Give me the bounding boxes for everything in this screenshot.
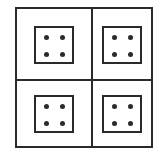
- grid-cell-top-right: [93, 9, 151, 75]
- dot-icon: [112, 35, 117, 40]
- dice-square: [102, 26, 142, 64]
- dot-icon: [44, 104, 49, 109]
- dice-square: [34, 95, 74, 133]
- grid-cell-top-left: [17, 9, 84, 75]
- dot-icon: [44, 35, 49, 40]
- grid-cell-bottom-right: [93, 81, 151, 146]
- dot-icon: [128, 121, 133, 126]
- dot-icon: [60, 121, 65, 126]
- grid-outer-border: [15, 7, 153, 148]
- dot-icon: [112, 121, 117, 126]
- dot-icon: [44, 121, 49, 126]
- dot-icon: [128, 104, 133, 109]
- dot-icon: [128, 35, 133, 40]
- dot-icon: [112, 104, 117, 109]
- dot-icon: [112, 52, 117, 57]
- dot-icon: [60, 52, 65, 57]
- dice-square: [102, 95, 142, 133]
- dot-icon: [128, 52, 133, 57]
- dot-icon: [60, 35, 65, 40]
- dot-icon: [60, 104, 65, 109]
- dice-square: [34, 26, 74, 64]
- grid-cell-bottom-left: [17, 81, 84, 146]
- dot-icon: [44, 52, 49, 57]
